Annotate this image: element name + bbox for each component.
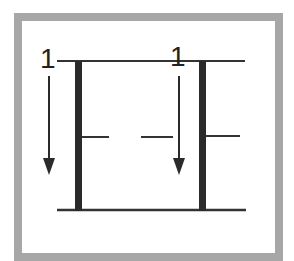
left-group: 1 bbox=[40, 43, 109, 211]
left-arrow-head-icon bbox=[43, 158, 55, 175]
right-vertical-bar bbox=[199, 61, 206, 211]
right-group: 1 bbox=[141, 41, 240, 211]
right-arrow-head-icon bbox=[173, 158, 185, 175]
left-label: 1 bbox=[40, 43, 56, 74]
left-vertical-bar bbox=[75, 61, 82, 211]
right-label: 1 bbox=[170, 41, 186, 72]
